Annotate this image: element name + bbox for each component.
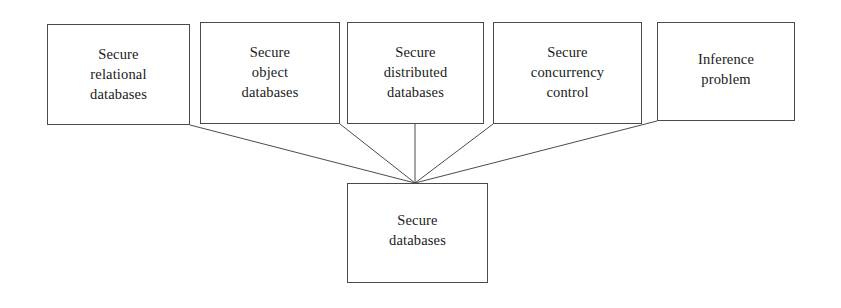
node-label: Securedatabases <box>348 210 487 250</box>
node-label: Secureobjectdatabases <box>201 42 339 102</box>
node-label-line: concurrency <box>494 62 641 82</box>
node-label-line: control <box>494 82 641 102</box>
node-secure-object-databases[interactable]: Secureobjectdatabases <box>200 22 340 124</box>
node-label-line: Secure <box>348 210 487 230</box>
node-label: Inferenceproblem <box>658 49 794 89</box>
node-label-line: Secure <box>494 42 641 62</box>
node-secure-relational-databases[interactable]: Securerelationaldatabases <box>47 24 190 125</box>
node-secure-databases[interactable]: Securedatabases <box>347 183 488 283</box>
edge-concurrency-to-root <box>415 124 493 183</box>
edge-object-to-root <box>340 124 415 183</box>
node-label-line: Inference <box>658 49 794 69</box>
node-label-line: databases <box>348 230 487 250</box>
node-label: Securerelationaldatabases <box>48 44 189 104</box>
node-label-line: Secure <box>201 42 339 62</box>
node-label-line: databases <box>348 82 483 102</box>
node-label-line: relational <box>48 64 189 84</box>
edge-inference-to-root <box>415 121 657 183</box>
node-secure-distributed-databases[interactable]: Securedistributeddatabases <box>347 22 484 124</box>
node-label-line: object <box>201 62 339 82</box>
node-label-line: databases <box>201 82 339 102</box>
node-label-line: Secure <box>348 42 483 62</box>
node-label-line: distributed <box>348 62 483 82</box>
node-label-line: databases <box>48 84 189 104</box>
node-inference-problem[interactable]: Inferenceproblem <box>657 22 795 121</box>
node-label-line: problem <box>658 69 794 89</box>
node-secure-concurrency-control[interactable]: Secureconcurrencycontrol <box>493 22 642 124</box>
node-label: Secureconcurrencycontrol <box>494 42 641 102</box>
node-label: Securedistributeddatabases <box>348 42 483 102</box>
node-label-line: Secure <box>48 44 189 64</box>
edge-relational-to-root <box>190 125 415 183</box>
diagram-canvas: SecurerelationaldatabasesSecureobjectdat… <box>0 0 841 308</box>
